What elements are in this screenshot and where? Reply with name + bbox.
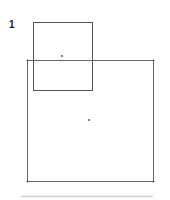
corner-dot (153, 60, 155, 62)
corner-dot (27, 60, 29, 62)
small-square-center-dot (61, 55, 63, 57)
corner-dot (153, 181, 155, 183)
small-square (34, 23, 93, 91)
large-square-center-dot (88, 119, 90, 121)
large-square (28, 61, 154, 182)
corner-dot (27, 181, 29, 183)
diagram-canvas (0, 0, 170, 200)
